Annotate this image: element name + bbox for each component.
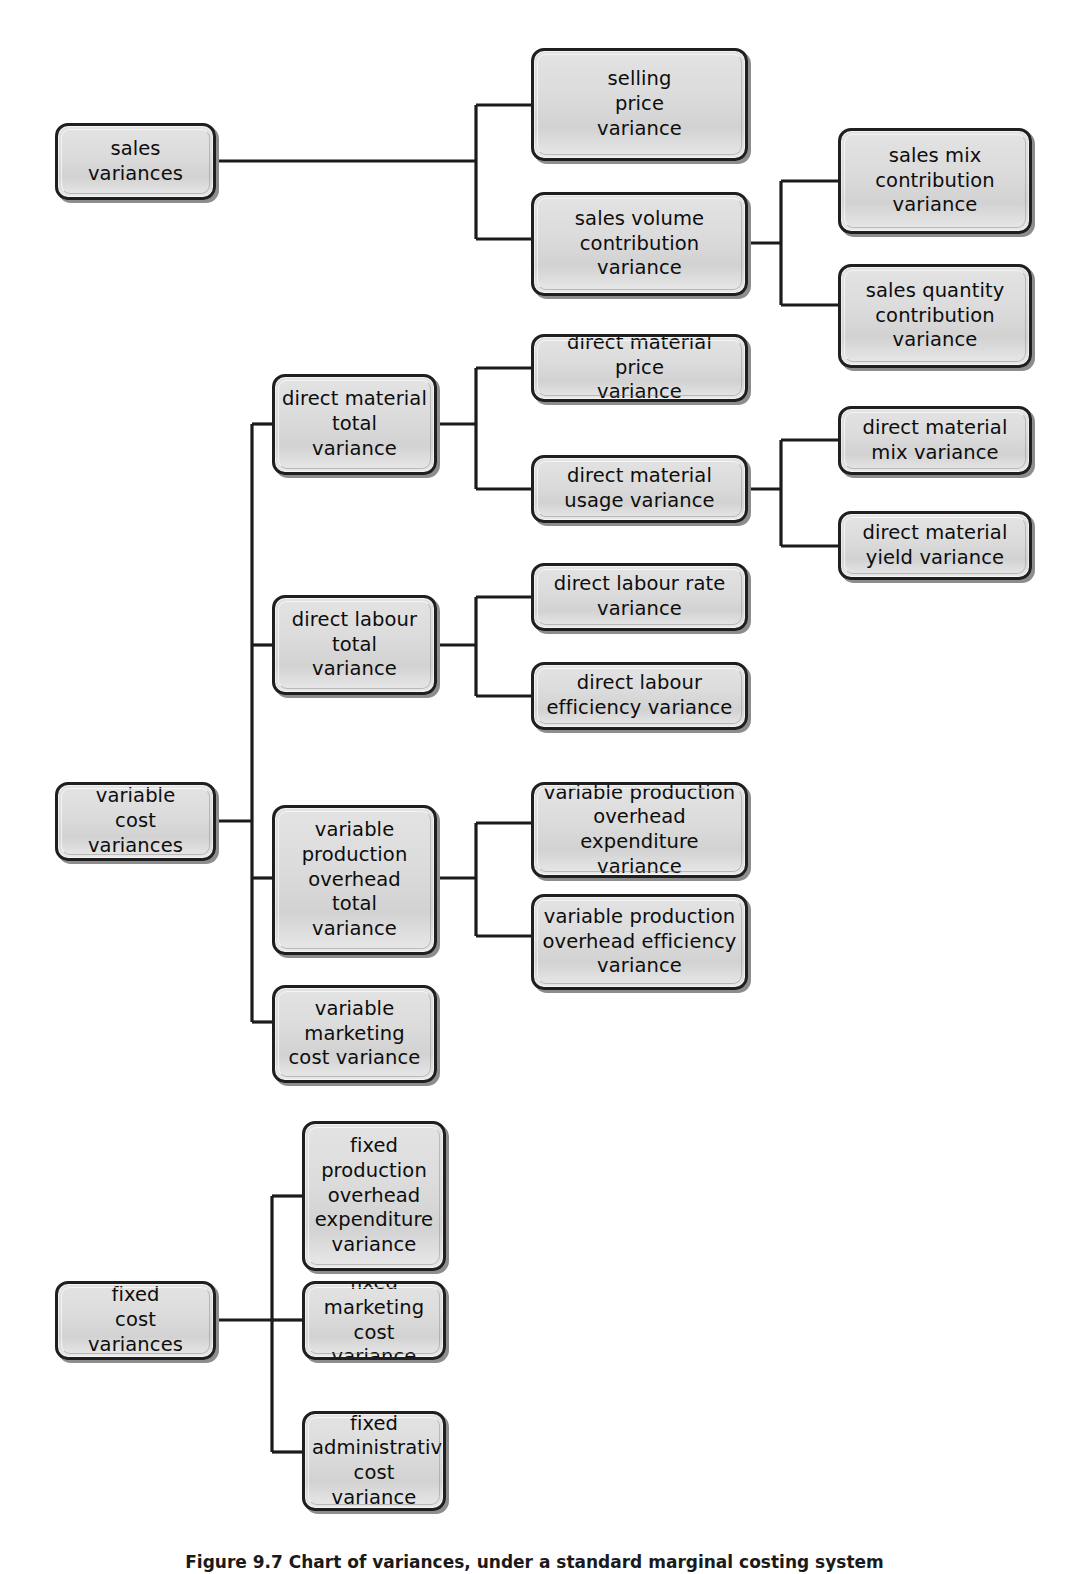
node-label: variable production overhead total varia… xyxy=(282,818,427,942)
node-label: sales variances xyxy=(65,137,206,187)
node-variable-marketing-cost-variance[interactable]: variable marketing cost variance xyxy=(272,985,437,1083)
node-direct-material-mix-variance[interactable]: direct material mix variance xyxy=(838,406,1032,475)
node-sales-variances[interactable]: sales variances xyxy=(55,123,216,200)
node-variable-production-overhead-efficiency-variance[interactable]: variable production overhead efficiency … xyxy=(531,894,748,990)
node-label: sales mix contribution variance xyxy=(848,144,1022,218)
node-label: direct material usage variance xyxy=(541,464,738,514)
node-label: fixed cost variances xyxy=(65,1283,206,1357)
node-fixed-marketing-cost-variance[interactable]: fixed marketing cost variance xyxy=(302,1281,446,1360)
node-selling-price-variance[interactable]: selling price variance xyxy=(531,48,748,161)
node-label: direct material total variance xyxy=(282,387,427,461)
node-variable-production-overhead-total-variance[interactable]: variable production overhead total varia… xyxy=(272,805,437,955)
node-label: variable production overhead efficiency … xyxy=(541,905,738,979)
node-variable-production-overhead-expenditure-variance[interactable]: variable production overhead expenditure… xyxy=(531,782,748,878)
node-label: direct labour rate variance xyxy=(541,572,738,622)
node-fixed-cost-variances[interactable]: fixed cost variances xyxy=(55,1281,216,1360)
node-label: fixed production overhead expenditure va… xyxy=(312,1134,436,1258)
node-sales-quantity-contribution-variance[interactable]: sales quantity contribution variance xyxy=(838,264,1032,368)
variance-chart-figure: sales variances selling price variance s… xyxy=(0,0,1069,1574)
figure-caption: Figure 9.7 Chart of variances, under a s… xyxy=(0,1552,1069,1572)
node-sales-volume-contribution-variance[interactable]: sales volume contribution variance xyxy=(531,192,748,296)
node-direct-labour-total-variance[interactable]: direct labour total variance xyxy=(272,595,437,695)
node-direct-labour-rate-variance[interactable]: direct labour rate variance xyxy=(531,563,748,631)
node-label: direct labour total variance xyxy=(282,608,427,682)
node-label: variable production overhead expenditure… xyxy=(541,782,738,878)
node-direct-labour-efficiency-variance[interactable]: direct labour efficiency variance xyxy=(531,662,748,730)
node-label: variable marketing cost variance xyxy=(282,997,427,1071)
node-label: fixed administrative cost variance xyxy=(312,1412,436,1511)
node-label: variable cost variances xyxy=(65,784,206,858)
node-label: selling price variance xyxy=(541,67,738,141)
node-fixed-production-overhead-expenditure-variance[interactable]: fixed production overhead expenditure va… xyxy=(302,1121,446,1271)
node-sales-mix-contribution-variance[interactable]: sales mix contribution variance xyxy=(838,128,1032,234)
node-direct-material-total-variance[interactable]: direct material total variance xyxy=(272,374,437,475)
node-label: direct material mix variance xyxy=(848,416,1022,466)
node-variable-cost-variances[interactable]: variable cost variances xyxy=(55,782,216,861)
node-fixed-administrative-cost-variance[interactable]: fixed administrative cost variance xyxy=(302,1411,446,1511)
node-direct-material-usage-variance[interactable]: direct material usage variance xyxy=(531,455,748,523)
node-label: direct labour efficiency variance xyxy=(541,671,738,721)
node-direct-material-price-variance[interactable]: direct material price variance xyxy=(531,334,748,402)
node-label: direct material price variance xyxy=(541,334,738,402)
node-label: direct material yield variance xyxy=(848,521,1022,571)
node-label: sales volume contribution variance xyxy=(541,207,738,281)
node-direct-material-yield-variance[interactable]: direct material yield variance xyxy=(838,511,1032,580)
node-label: sales quantity contribution variance xyxy=(848,279,1022,353)
node-label: fixed marketing cost variance xyxy=(312,1281,436,1360)
